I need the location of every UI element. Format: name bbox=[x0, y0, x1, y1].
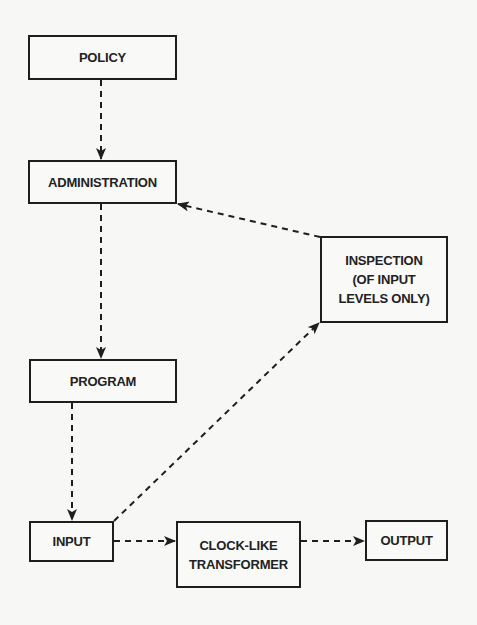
output-node: OUTPUT bbox=[365, 520, 448, 561]
transformer-label-line-2: TRANSFORMER bbox=[189, 555, 288, 574]
edge-input-to-inspection bbox=[114, 323, 319, 521]
policy-label: POLICY bbox=[79, 48, 126, 67]
inspection-label-line-2: (OF INPUT bbox=[352, 270, 415, 289]
edge-inspection-to-administration bbox=[178, 204, 320, 237]
inspection-label-line-1: INSPECTION bbox=[345, 251, 422, 270]
input-label: INPUT bbox=[52, 532, 90, 551]
administration-label: ADMINISTRATION bbox=[48, 173, 157, 192]
inspection-label-line-3: LEVELS ONLY) bbox=[338, 289, 429, 308]
transformer-label-line-1: CLOCK-LIKE bbox=[199, 536, 277, 555]
input-node: INPUT bbox=[29, 521, 114, 562]
clock-like-transformer-node: CLOCK-LIKE TRANSFORMER bbox=[176, 521, 301, 588]
inspection-node: INSPECTION (OF INPUT LEVELS ONLY) bbox=[320, 236, 448, 323]
policy-node: POLICY bbox=[28, 35, 177, 80]
program-label: PROGRAM bbox=[70, 372, 137, 391]
program-node: PROGRAM bbox=[29, 359, 177, 403]
administration-node: ADMINISTRATION bbox=[28, 160, 177, 204]
output-label: OUTPUT bbox=[380, 531, 432, 550]
